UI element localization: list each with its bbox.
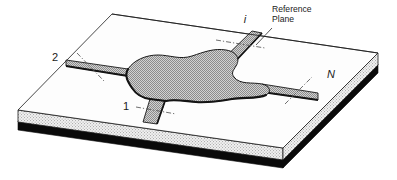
reference-plane-label-line1: Reference [272,4,312,14]
port-label-2: 2 [52,51,58,63]
n-port-network-diagram: Reference Plane i 2 N 1 [0,0,397,180]
port-label-N: N [327,68,335,80]
figure-root: Reference Plane i 2 N 1 [0,0,397,180]
port-label-i: i [244,13,247,25]
reference-plane-label-line2: Plane [272,14,294,24]
port-label-1: 1 [123,100,129,112]
